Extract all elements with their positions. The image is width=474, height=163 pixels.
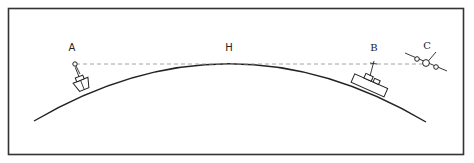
ship-a-icon <box>68 64 92 92</box>
aircraft-c-icon <box>405 52 447 71</box>
label-a: A <box>69 42 76 53</box>
earth-curvature-diagram: A H B C <box>0 0 474 163</box>
earth-curve <box>34 64 426 122</box>
label-c: C <box>423 40 431 51</box>
label-b: B <box>370 42 377 53</box>
label-h: H <box>225 42 233 53</box>
observer-a-icon <box>73 62 77 66</box>
